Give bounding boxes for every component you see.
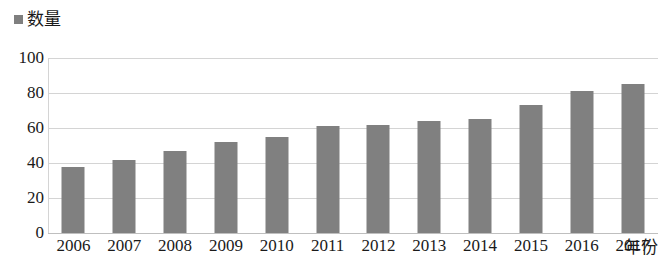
x-axis-tick-label: 2006	[56, 236, 90, 256]
plot-area	[48, 58, 658, 233]
x-axis-tick-label: 2009	[209, 236, 243, 256]
bar-slot	[99, 58, 150, 233]
bar-series-quantity	[48, 58, 658, 233]
bar-2017[interactable]	[621, 84, 644, 233]
bar-2016[interactable]	[570, 91, 593, 233]
bar-2006[interactable]	[62, 167, 85, 234]
bar-slot	[251, 58, 302, 233]
x-axis-tick-label: 2012	[361, 236, 395, 256]
bar-2011[interactable]	[316, 126, 339, 233]
x-axis: 2006200720082009201020112012201320142015…	[48, 236, 658, 262]
x-axis-tick-label: 2007	[107, 236, 141, 256]
bar-chart: 数量 020406080100 200620072008200920102011…	[0, 0, 671, 267]
grid-line	[48, 233, 658, 234]
x-axis-tick-label: 2011	[311, 236, 344, 256]
y-axis: 020406080100	[0, 0, 44, 267]
y-axis-tick-label: 0	[2, 224, 44, 241]
bar-2013[interactable]	[418, 121, 441, 233]
bar-2010[interactable]	[265, 137, 288, 233]
bar-slot	[607, 58, 658, 233]
bar-slot	[556, 58, 607, 233]
bar-slot	[201, 58, 252, 233]
x-axis-tick-label: 2013	[412, 236, 446, 256]
bar-slot	[150, 58, 201, 233]
y-axis-tick-label: 20	[2, 189, 44, 206]
y-axis-tick-label: 60	[2, 119, 44, 136]
bar-2009[interactable]	[214, 142, 237, 233]
bar-slot	[353, 58, 404, 233]
bar-slot	[404, 58, 455, 233]
x-axis-tick-label: 2014	[463, 236, 497, 256]
x-axis-tick-label: 2010	[260, 236, 294, 256]
bar-2015[interactable]	[519, 105, 542, 233]
bar-2007[interactable]	[113, 160, 136, 234]
x-axis-tick-label: 2008	[158, 236, 192, 256]
bar-slot	[506, 58, 557, 233]
y-axis-tick-label: 80	[2, 84, 44, 101]
bar-2012[interactable]	[367, 125, 390, 234]
bar-slot	[48, 58, 99, 233]
bar-slot	[455, 58, 506, 233]
x-axis-tick-label: 2016	[565, 236, 599, 256]
bar-2014[interactable]	[469, 119, 492, 233]
y-axis-tick-label: 100	[2, 49, 44, 66]
x-axis-title: 年份	[624, 238, 658, 258]
x-axis-tick-label: 2015	[514, 236, 548, 256]
bar-slot	[302, 58, 353, 233]
y-axis-tick-label: 40	[2, 154, 44, 171]
bar-2008[interactable]	[164, 151, 187, 233]
